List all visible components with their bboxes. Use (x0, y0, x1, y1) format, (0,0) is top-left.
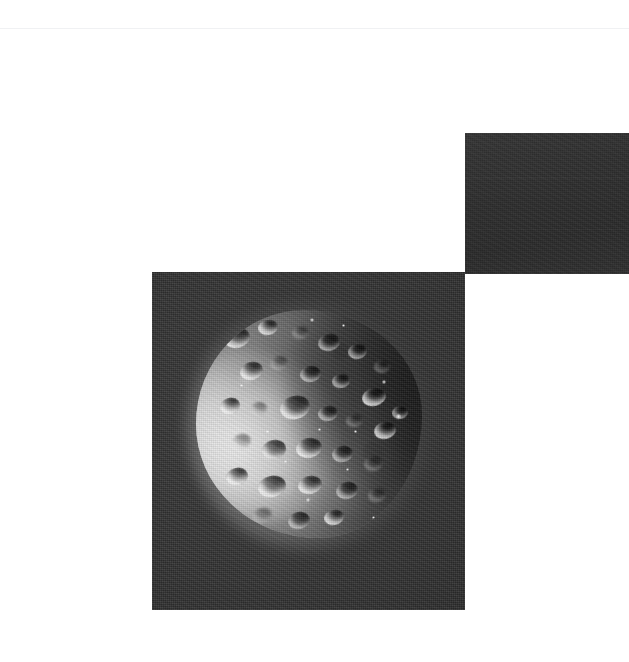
crater-rim-highlight (306, 498, 310, 502)
dark-swatch-plate (465, 133, 629, 274)
crater-rim-highlight (372, 516, 375, 519)
swatch-band (465, 229, 629, 230)
crater-rim-highlight (346, 468, 349, 471)
page-canvas: cratered icy moon (0, 0, 629, 662)
crater-rim-highlight (382, 380, 386, 384)
scan-divider-rule (0, 28, 629, 29)
crater-rim-highlight (284, 460, 287, 463)
photo-subject-label: cratered icy moon (0, 0, 1, 1)
crater-rim-highlight (310, 318, 314, 322)
crater-rim-highlight (396, 414, 401, 419)
crater-rim-highlight (266, 430, 269, 433)
crater-rim-highlight (354, 430, 357, 433)
swatch-band (465, 177, 629, 179)
crater-rim-highlight (342, 324, 345, 327)
moon-disc (196, 310, 422, 538)
moon-figure (186, 300, 432, 550)
moon-photograph-plate (152, 272, 465, 610)
crater-rim-highlight (318, 428, 321, 431)
crater-rim-highlight (240, 384, 243, 387)
